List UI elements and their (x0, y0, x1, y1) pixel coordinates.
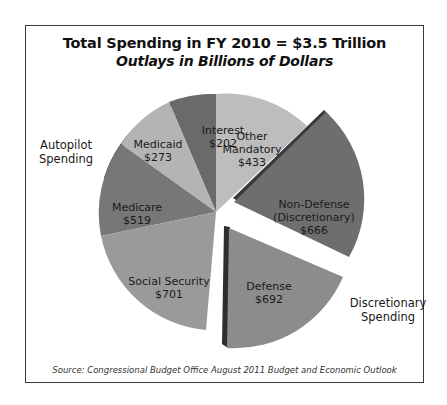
autopilot-line2: Spending (31, 152, 101, 166)
discretionary-line2: Spending (348, 310, 428, 324)
discretionary-line1: Discretionary (348, 296, 428, 310)
source-note: Source: Congressional Budget Office Augu… (26, 365, 423, 375)
annotation-autopilot-spending: Autopilot Spending (31, 138, 101, 166)
chart-frame: Total Spending in FY 2010 = $3.5 Trillio… (25, 25, 424, 383)
pie-chart: Interest$202 Medicaid$273 Medicare$519 S… (26, 26, 425, 384)
autopilot-line1: Autopilot (31, 138, 101, 152)
annotation-discretionary-spending: Discretionary Spending (348, 296, 428, 324)
